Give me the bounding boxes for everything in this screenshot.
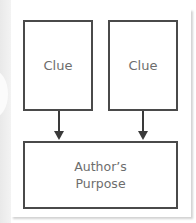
authors-purpose-box: Author’s Purpose	[23, 141, 178, 209]
arrow-shaft	[142, 111, 144, 133]
label-line-1: Author’s	[74, 158, 127, 175]
arrow-head	[54, 131, 64, 140]
clue-label: Clue	[44, 58, 73, 73]
arrow-down-icon	[138, 111, 148, 141]
authors-purpose-label: Author’s Purpose	[74, 158, 127, 192]
clue-box-left: Clue	[23, 20, 93, 111]
clue-label: Clue	[129, 58, 158, 73]
label-line-2: Purpose	[74, 175, 127, 192]
clue-box-right: Clue	[108, 20, 178, 111]
arrow-head	[138, 131, 148, 140]
left-margin-strip	[0, 0, 11, 223]
arrow-down-icon	[54, 111, 64, 141]
arrow-shaft	[58, 111, 60, 133]
page: Clue Clue Author’s Purpose	[0, 0, 196, 223]
diagram-card: Clue Clue Author’s Purpose	[11, 9, 191, 217]
decorative-shape	[0, 70, 8, 118]
